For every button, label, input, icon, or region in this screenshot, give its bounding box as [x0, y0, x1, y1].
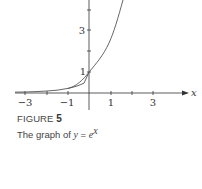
- description-prefix: The graph of: [17, 129, 74, 140]
- figure-number: 5: [56, 113, 62, 124]
- figure-title: FIGURE 5: [17, 113, 98, 125]
- y-tick-label: 3: [79, 25, 85, 36]
- x-tick-label: 3: [150, 97, 156, 108]
- figure-caption: FIGURE 5 The graph of y = ex: [17, 113, 98, 141]
- x-tick-label: −3: [18, 97, 33, 108]
- x-tick-label: 1: [108, 97, 114, 108]
- description-exponent: x: [93, 125, 97, 136]
- exp-graph-plot: −3 −1 1 3 3 1 x: [0, 0, 202, 112]
- y-tick-label: 1: [80, 66, 86, 77]
- x-axis-arrow-icon: [182, 91, 189, 96]
- description-eq: =: [78, 129, 89, 140]
- x-axis-label: x: [191, 87, 197, 98]
- figure-label: FIGURE: [17, 113, 54, 124]
- figure-description: The graph of y = ex: [17, 125, 98, 141]
- x-tick-label: −1: [60, 97, 75, 108]
- exp-curve: [15, 0, 123, 92]
